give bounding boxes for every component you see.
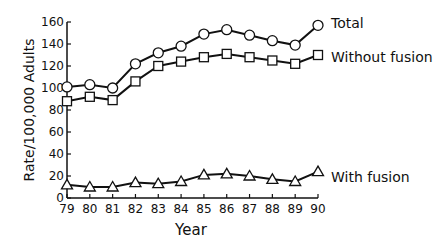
x-tick-label: 89	[288, 202, 303, 216]
x-tick-label: 85	[196, 202, 211, 216]
circle-marker	[290, 40, 300, 50]
x-tick-label: 86	[219, 202, 234, 216]
square-marker	[177, 57, 186, 66]
y-tick-label: 120	[41, 59, 64, 73]
y-axis-label: Rate/100,000 Adults	[21, 39, 37, 182]
series-total	[62, 20, 323, 93]
legend-with-fusion: With fusion	[331, 169, 410, 185]
y-tick-label: 20	[49, 169, 64, 183]
x-tick-label: 81	[105, 202, 120, 216]
series-group	[62, 20, 324, 191]
x-tick-label: 90	[310, 202, 325, 216]
line-chart: 0204060801001201401607980818283848586878…	[0, 0, 435, 247]
circle-marker	[85, 80, 95, 90]
legend-without-fusion: Without fusion	[331, 49, 433, 65]
circle-marker	[62, 82, 72, 92]
circle-marker	[130, 59, 140, 69]
x-tick-label: 88	[265, 202, 280, 216]
square-marker	[268, 56, 277, 65]
square-marker	[131, 77, 140, 86]
y-tick-label: 140	[41, 37, 64, 51]
circle-marker	[199, 29, 209, 39]
y-tick-label: 80	[49, 103, 64, 117]
circle-marker	[267, 36, 277, 46]
x-tick-label: 80	[82, 202, 97, 216]
y-tick-label: 40	[49, 147, 64, 161]
square-marker	[108, 96, 117, 105]
square-marker	[222, 49, 231, 58]
circle-marker	[153, 48, 163, 58]
square-marker	[291, 59, 300, 68]
square-marker	[314, 51, 323, 60]
circle-marker	[245, 30, 255, 40]
y-tick-label: 160	[41, 15, 64, 29]
x-tick-label: 84	[173, 202, 188, 216]
square-marker	[85, 92, 94, 101]
circle-marker	[108, 83, 118, 93]
x-tick-label: 87	[242, 202, 257, 216]
triangle-marker	[313, 166, 324, 176]
series-with-fusion	[62, 166, 324, 191]
circle-marker	[176, 41, 186, 51]
circle-marker	[222, 25, 232, 35]
square-marker	[154, 62, 163, 71]
square-marker	[63, 97, 72, 106]
x-tick-label: 83	[151, 202, 166, 216]
series-without-fusion	[63, 49, 323, 105]
y-tick-label: 100	[41, 81, 64, 95]
square-marker	[245, 53, 254, 62]
legend-total: Total	[330, 15, 364, 31]
square-marker	[199, 53, 208, 62]
x-tick-label: 79	[59, 202, 74, 216]
x-tick-label: 82	[128, 202, 143, 216]
y-tick-label: 60	[49, 125, 64, 139]
circle-marker	[313, 20, 323, 30]
x-axis-label: Year	[174, 221, 208, 239]
